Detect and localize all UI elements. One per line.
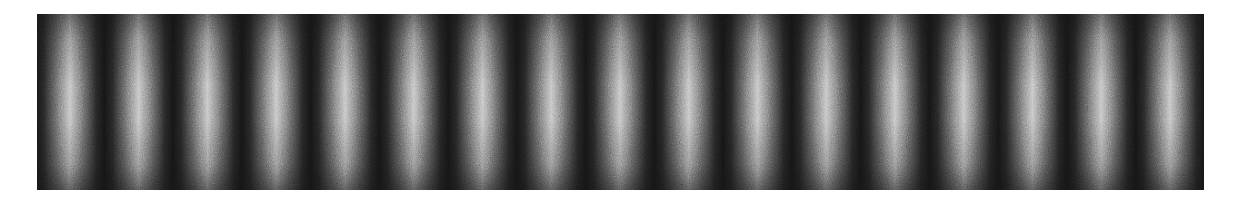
fringe-bands: [37, 14, 1204, 190]
figure-canvas: [0, 0, 1248, 206]
interference-fringe-image: [37, 14, 1204, 190]
